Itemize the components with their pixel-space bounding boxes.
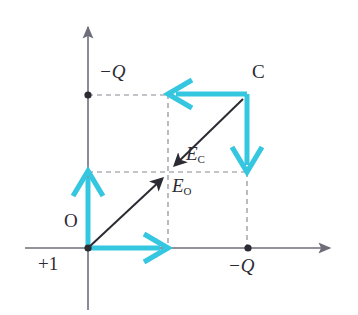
charge-on-y-axis-marker xyxy=(84,91,91,98)
field-at-c-symbol: E xyxy=(186,143,198,164)
electric-field-diagram: O +1 −Q −Q C EC EO xyxy=(0,0,358,315)
field-at-c-label: EC xyxy=(186,144,205,163)
field-at-o-symbol: E xyxy=(172,175,184,196)
axis-group xyxy=(25,27,330,310)
field-at-o-horizontal-component-vector xyxy=(88,234,168,262)
field-at-c-horizontal-component-vector xyxy=(168,80,247,108)
resultant-vectors-group xyxy=(88,99,243,248)
field-at-o-label: EO xyxy=(172,176,192,195)
origin-label: O xyxy=(64,211,78,230)
field-at-o-subscript: O xyxy=(184,185,192,197)
field-at-c-subscript: C xyxy=(198,153,205,165)
corner-point-label: C xyxy=(252,62,265,81)
charge-y-axis-label: −Q xyxy=(99,62,126,81)
charge-x-axis-label: −Q xyxy=(228,256,255,275)
test-charge-label: +1 xyxy=(38,254,58,273)
origin-point-marker xyxy=(84,244,91,251)
charge-on-x-axis-marker xyxy=(244,244,251,251)
